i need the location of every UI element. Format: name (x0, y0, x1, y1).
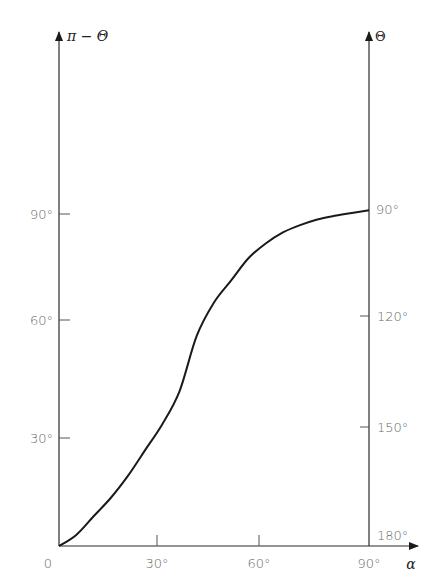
x-tick-label-30: 30° (145, 556, 168, 571)
left-axis-title: π − Θ (66, 28, 109, 44)
x-axis-title: α (406, 556, 416, 572)
right-tick-label-150: 150° (377, 420, 408, 435)
left-tick-label-90: 90° (30, 207, 53, 222)
x-tick-label-90: 90° (357, 556, 380, 571)
data-curve (59, 210, 369, 546)
right-tick-label-180: 180° (377, 528, 408, 543)
x-tick-label-origin: 0 (44, 556, 52, 571)
right-tick-label-90: 90° (376, 202, 399, 217)
right-tick-label-120: 120° (377, 309, 408, 324)
chart-figure: 90° 60° 30° 90° 120° 150° 180° 0 30° 60°… (0, 0, 437, 587)
right-axis-title: Θ (375, 29, 386, 44)
left-tick-label-60: 60° (30, 313, 53, 328)
left-tick-label-30: 30° (30, 431, 53, 446)
x-tick-label-60: 60° (247, 556, 270, 571)
